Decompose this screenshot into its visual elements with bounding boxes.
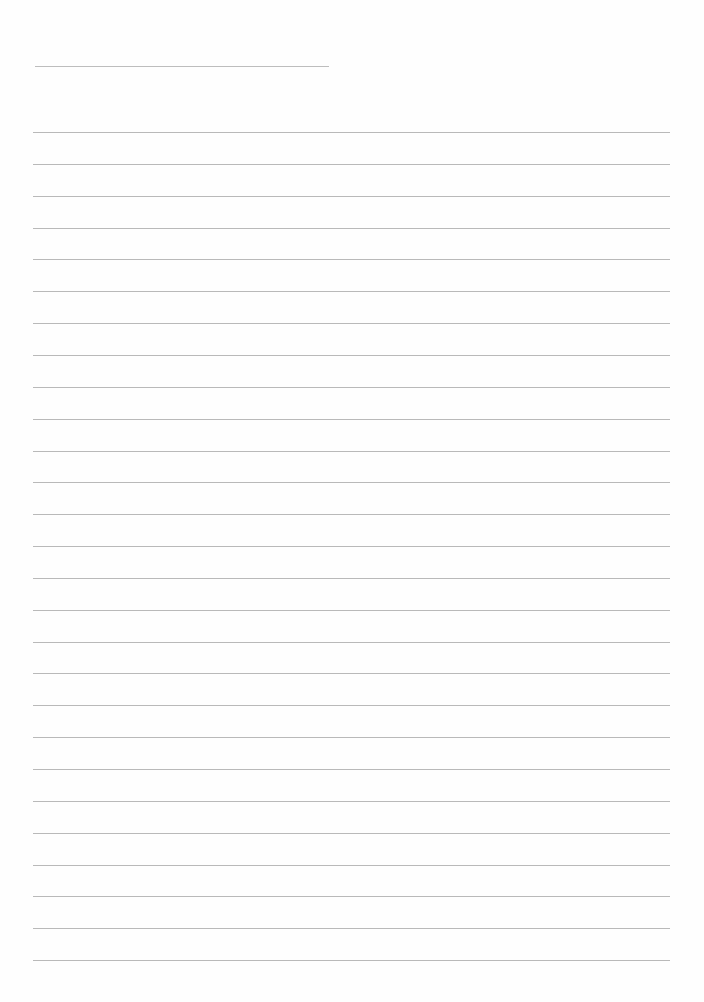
ruled-line xyxy=(33,960,670,961)
ruled-line xyxy=(33,514,670,515)
ruled-line xyxy=(33,482,670,483)
ruled-line xyxy=(33,705,670,706)
ruled-line xyxy=(33,928,670,929)
header-title-line xyxy=(35,66,329,67)
ruled-line xyxy=(33,419,670,420)
ruled-line xyxy=(33,387,670,388)
ruled-line xyxy=(33,769,670,770)
ruled-line xyxy=(33,896,670,897)
ruled-line xyxy=(33,291,670,292)
ruled-line xyxy=(33,610,670,611)
ruled-line xyxy=(33,578,670,579)
ruled-line xyxy=(33,451,670,452)
ruled-line xyxy=(33,259,670,260)
ruled-line xyxy=(33,737,670,738)
ruled-line xyxy=(33,546,670,547)
ruled-line xyxy=(33,164,670,165)
ruled-line xyxy=(33,673,670,674)
ruled-line xyxy=(33,132,670,133)
ruled-line xyxy=(33,323,670,324)
ruled-line xyxy=(33,228,670,229)
lined-paper-page xyxy=(0,0,704,1002)
ruled-line xyxy=(33,642,670,643)
ruled-line xyxy=(33,865,670,866)
ruled-line xyxy=(33,355,670,356)
ruled-line xyxy=(33,801,670,802)
ruled-line xyxy=(33,833,670,834)
ruled-line xyxy=(33,196,670,197)
